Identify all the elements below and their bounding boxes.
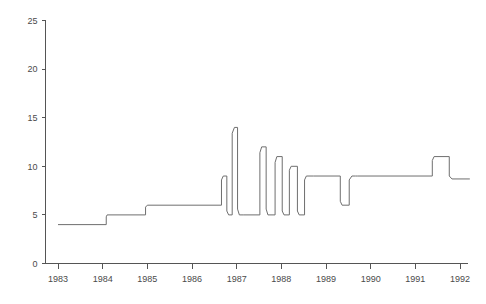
data-series-group [58, 127, 470, 224]
y-tick-label: 10 [27, 162, 37, 172]
y-axis: 0510152025 [27, 16, 45, 269]
x-tick-label: 1988 [271, 274, 291, 284]
data-line-1 [58, 127, 470, 224]
x-tick-label: 1991 [405, 274, 425, 284]
x-tick-label: 1992 [450, 274, 470, 284]
line-chart: 0510152025 19831984198519861987198819891… [0, 0, 486, 304]
x-tick-label: 1989 [316, 274, 336, 284]
x-tick-label: 1985 [137, 274, 157, 284]
x-tick-label: 1986 [182, 274, 202, 284]
y-tick-label: 15 [27, 113, 37, 123]
x-axis: 1983198419851986198719881989199019911992 [46, 264, 471, 284]
y-tick-label: 20 [27, 64, 37, 74]
x-tick-label: 1987 [227, 274, 247, 284]
chart-container: 0510152025 19831984198519861987198819891… [0, 0, 486, 304]
y-tick-label: 5 [32, 210, 37, 220]
x-tick-label: 1983 [48, 274, 68, 284]
y-tick-label: 25 [27, 16, 37, 26]
x-tick-label: 1984 [93, 274, 113, 284]
x-tick-label: 1990 [361, 274, 381, 284]
y-tick-label: 0 [32, 259, 37, 269]
